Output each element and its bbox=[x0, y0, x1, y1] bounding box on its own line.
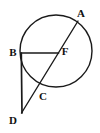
point-label-a: A bbox=[77, 7, 85, 19]
circle-outline bbox=[20, 15, 92, 87]
segment-bd-tangent bbox=[21, 53, 22, 113]
point-label-c: C bbox=[39, 90, 47, 102]
geometry-canvas: A B F C D bbox=[0, 0, 100, 133]
segment-ad-secant bbox=[22, 21, 79, 113]
geometry-figure: A B F C D bbox=[0, 0, 100, 133]
point-label-f: F bbox=[62, 45, 69, 57]
point-label-b: B bbox=[9, 46, 17, 58]
point-label-d: D bbox=[9, 114, 17, 126]
